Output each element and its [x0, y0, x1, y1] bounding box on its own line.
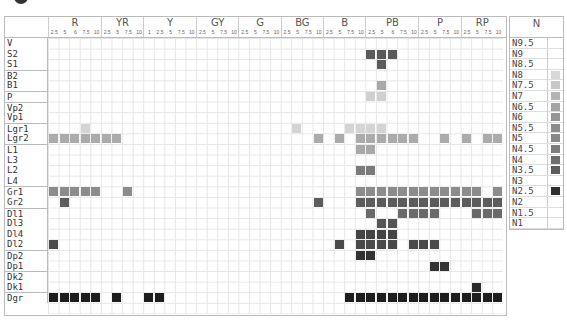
hue-group-label: R	[49, 17, 101, 28]
hue-group-gy: GY2.557.510	[196, 17, 238, 37]
neutral-swatch	[551, 145, 560, 153]
color-cell	[409, 293, 418, 302]
color-cell	[377, 60, 386, 69]
hue-step-label: 2.5	[239, 28, 250, 36]
color-cell	[366, 187, 375, 196]
color-cell	[377, 219, 386, 228]
color-cell	[419, 209, 428, 218]
hue-step-label: 7.5	[440, 28, 451, 36]
color-cell	[419, 187, 428, 196]
neutral-swatch	[551, 103, 560, 111]
hue-step-label: 7.5	[81, 28, 92, 36]
hue-group-label: YR	[102, 17, 143, 28]
color-cell	[398, 134, 407, 143]
color-cell	[430, 187, 439, 196]
hue-group-g: G2.557.510	[238, 17, 280, 37]
color-cell	[451, 187, 460, 196]
neutral-label: N2.5	[510, 186, 548, 196]
color-cell	[440, 134, 449, 143]
hue-group-r: R2.5567.510	[48, 17, 101, 37]
tone-label-p: P	[5, 91, 48, 102]
color-cell	[472, 283, 481, 292]
hue-step-label: 2.5	[49, 28, 60, 36]
neutral-label: N9	[510, 49, 548, 59]
tone-label-l4: L4	[5, 176, 48, 187]
color-cell	[388, 198, 397, 207]
color-cell	[60, 293, 69, 302]
color-cell	[91, 134, 100, 143]
tone-label-v: V	[5, 38, 48, 49]
color-cell	[356, 187, 365, 196]
neutral-row: N6.5	[510, 102, 563, 113]
color-cell	[49, 240, 58, 249]
color-cell	[440, 293, 449, 302]
color-cell	[81, 293, 90, 302]
color-cell	[81, 134, 90, 143]
hue-step-label: 2.5	[155, 28, 166, 36]
neutral-scale-title: N	[510, 17, 563, 38]
neutral-row: N5.5	[510, 123, 563, 134]
color-cell	[70, 293, 79, 302]
color-cell	[377, 230, 386, 239]
tone-label-b1: B1	[5, 80, 48, 91]
hue-header: R2.5567.510YR2.557.510Y12.557.510GY2.557…	[5, 17, 506, 38]
hue-tone-grid-chart: R2.5567.510YR2.557.510Y12.557.510GY2.557…	[4, 16, 507, 316]
neutral-label: N8	[510, 70, 548, 80]
color-cell	[70, 134, 79, 143]
color-cell	[388, 134, 397, 143]
color-cell	[388, 219, 397, 228]
color-cell	[493, 187, 502, 196]
neutral-label: N7	[510, 91, 548, 101]
color-cell	[472, 209, 481, 218]
neutral-label: N1.5	[510, 208, 548, 218]
hue-step-label: 5	[208, 28, 219, 36]
color-cell	[493, 293, 502, 302]
color-cell	[377, 124, 386, 133]
color-cell	[377, 81, 386, 90]
color-cell	[377, 134, 386, 143]
color-cell	[60, 198, 69, 207]
neutral-swatch	[551, 92, 560, 100]
neutral-row: N3.5	[510, 165, 563, 176]
tone-label-dl3: Dl3	[5, 218, 48, 229]
color-cell	[356, 198, 365, 207]
neutral-row: N5	[510, 133, 563, 144]
color-cell	[388, 293, 397, 302]
color-cell	[472, 198, 481, 207]
neutral-label: N8.5	[510, 59, 548, 69]
tone-label-vp1: Vp1	[5, 112, 48, 123]
hue-group-label: PB	[366, 17, 418, 28]
neutral-scale-panel: N N9.5N9N8.5N8N7.5N7N6.5N6N5.5N5N4.5N4N3…	[509, 16, 564, 230]
color-cell	[377, 187, 386, 196]
hue-group-b: B2.557.510	[323, 17, 365, 37]
color-cell	[430, 198, 439, 207]
tone-label-l2: L2	[5, 165, 48, 176]
hue-step-label: 7.5	[345, 28, 356, 36]
color-cell	[81, 187, 90, 196]
color-cell	[49, 187, 58, 196]
neutral-swatch	[551, 134, 560, 142]
tone-label-dl2: Dl2	[5, 239, 48, 250]
neutral-row: N9	[510, 49, 563, 60]
color-cell	[366, 145, 375, 154]
neutral-label: N1	[510, 218, 548, 228]
neutral-row: N2	[510, 197, 563, 208]
color-cell	[356, 293, 365, 302]
color-cell	[356, 240, 365, 249]
neutral-row: N6	[510, 112, 563, 123]
color-cell	[314, 134, 323, 143]
color-cell	[366, 209, 375, 218]
color-cell	[483, 134, 492, 143]
hue-group-bg: BG2.557.510	[281, 17, 323, 37]
hue-step-label: 6	[388, 28, 399, 36]
color-cell	[356, 134, 365, 143]
hue-group-label: BG	[282, 17, 323, 28]
color-cell	[430, 240, 439, 249]
color-cell	[483, 198, 492, 207]
color-cell	[440, 198, 449, 207]
neutral-swatch	[551, 156, 560, 164]
hue-step-label: 2.5	[324, 28, 335, 36]
color-cell	[388, 230, 397, 239]
hue-step-label: 5	[472, 28, 483, 36]
tone-label-lgr2: Lgr2	[5, 133, 48, 144]
